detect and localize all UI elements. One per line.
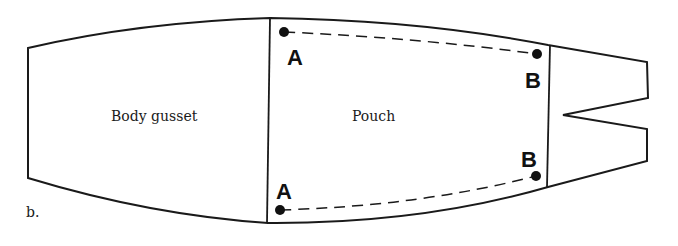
point-a-bottom-dot (275, 205, 285, 215)
point-a-top-dot (279, 27, 289, 37)
point-a-top-label: A (287, 45, 303, 70)
figure-label: b. (26, 204, 39, 220)
body-gusset-label: Body gusset (111, 108, 198, 124)
gusset-pouch-divider (267, 18, 270, 223)
point-b-bottom-dot (531, 171, 541, 181)
stitch-line-bottom (280, 176, 536, 210)
point-b-top-dot (532, 49, 542, 59)
pouch-tail-divider (547, 45, 550, 187)
stitch-line-top (284, 32, 537, 54)
point-b-top-label: B (525, 68, 541, 93)
pattern-diagram: A B B A Body gusset Pouch b. (0, 0, 678, 246)
point-b-bottom-label: B (521, 147, 537, 172)
pouch-label: Pouch (352, 108, 395, 124)
point-a-bottom-label: A (276, 179, 292, 204)
